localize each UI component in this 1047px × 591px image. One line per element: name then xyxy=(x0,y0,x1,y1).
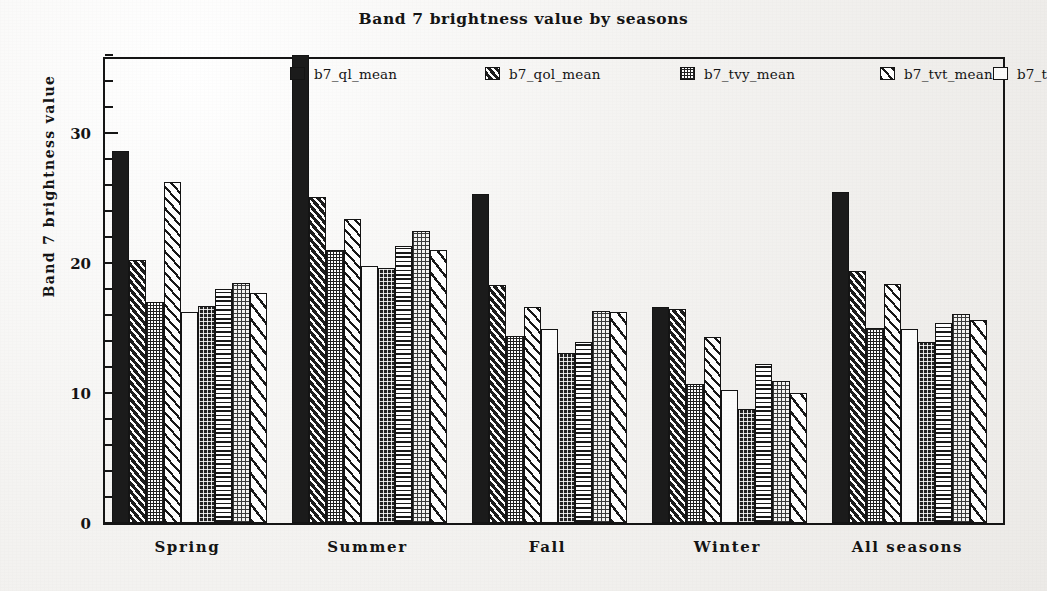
legend-swatch-icon xyxy=(485,67,500,80)
bar xyxy=(935,323,952,523)
bar xyxy=(489,285,506,523)
bar xyxy=(832,192,849,524)
bar xyxy=(755,364,772,523)
bar xyxy=(884,284,901,523)
bar xyxy=(412,231,429,524)
legend-swatch-icon xyxy=(880,67,895,80)
bar xyxy=(198,306,215,523)
bar xyxy=(866,328,883,523)
bar xyxy=(849,271,866,523)
bar xyxy=(146,302,163,523)
y-axis-title: Band 7 brightness value xyxy=(41,41,57,331)
bar xyxy=(952,314,969,523)
bar xyxy=(738,409,755,523)
bar xyxy=(326,250,343,523)
x-axis-tick-label: Summer xyxy=(327,538,408,556)
bar xyxy=(790,393,807,523)
bar xyxy=(378,268,395,523)
y-axis-major-tick xyxy=(105,132,118,134)
legend: b7_ql_meanb7_qol_meanb7_tvy_meanb7_tvt_m… xyxy=(290,62,890,85)
bar xyxy=(901,329,918,523)
y-axis-tick-label: 30 xyxy=(51,125,91,143)
legend-item[interactable]: b7_qol_mean xyxy=(485,66,680,82)
legend-swatch-icon xyxy=(993,67,1008,80)
legend-item[interactable]: b7_tvy_mean xyxy=(680,66,880,82)
y-axis-minor-tick xyxy=(105,54,113,56)
y-axis-minor-tick xyxy=(105,106,113,108)
bar xyxy=(361,266,378,523)
bar xyxy=(430,250,447,523)
bar xyxy=(918,342,935,523)
bar xyxy=(292,55,309,523)
bar xyxy=(129,260,146,523)
y-axis-tick-label: 20 xyxy=(51,255,91,273)
bar xyxy=(970,320,987,523)
bar xyxy=(686,384,703,523)
legend-label: b7_tvy_mean xyxy=(704,66,795,82)
bar xyxy=(215,289,232,523)
legend-swatch-icon xyxy=(680,67,695,80)
bar xyxy=(558,353,575,523)
legend-label: b7_tvt_mean xyxy=(904,66,993,82)
bar xyxy=(669,309,686,524)
bar xyxy=(772,381,789,523)
bar xyxy=(250,293,267,523)
legend-label: b7_qol_mean xyxy=(509,66,601,82)
bar xyxy=(232,283,249,524)
y-axis-minor-tick xyxy=(105,80,113,82)
bar xyxy=(181,312,198,523)
x-axis-tick-label: All seasons xyxy=(852,538,963,556)
legend-swatch-icon xyxy=(290,67,305,80)
legend-label: b7_ql_mean xyxy=(314,66,397,82)
x-axis-tick-label: Spring xyxy=(154,538,220,556)
bar xyxy=(704,337,721,523)
bar xyxy=(506,336,523,523)
bar xyxy=(112,151,129,523)
bar-chart: Band 7 brightness value by seasons Band … xyxy=(0,0,1047,591)
bar xyxy=(592,311,609,523)
bar xyxy=(309,197,326,523)
x-axis-tick-label: Winter xyxy=(694,538,761,556)
y-axis-tick-label: 10 xyxy=(51,385,91,403)
bar xyxy=(652,307,669,523)
y-axis-tick-label: 0 xyxy=(51,515,91,533)
legend-item[interactable]: b7_tg_mean xyxy=(993,66,1047,82)
x-axis-tick-label: Fall xyxy=(529,538,566,556)
plot-area xyxy=(103,57,1005,525)
bar xyxy=(541,329,558,523)
bar xyxy=(472,194,489,523)
bar xyxy=(344,219,361,523)
legend-item[interactable]: b7_tvt_mean xyxy=(880,66,993,82)
bar xyxy=(164,182,181,523)
legend-label: b7_tg_mean xyxy=(1017,66,1047,82)
bar xyxy=(395,246,412,523)
bar xyxy=(524,307,541,523)
bar xyxy=(721,390,738,523)
bar xyxy=(610,312,627,523)
bar xyxy=(575,342,592,523)
chart-title: Band 7 brightness value by seasons xyxy=(0,9,1047,28)
legend-item[interactable]: b7_ql_mean xyxy=(290,66,485,82)
